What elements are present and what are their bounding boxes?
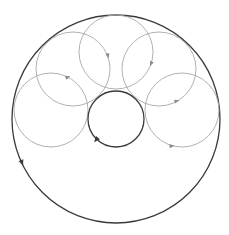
chain-circle-top (79, 15, 153, 89)
outer-circle-arrow-icon (19, 159, 26, 166)
chain-circle-upper-left (36, 32, 110, 106)
circle-chain-diagram (0, 0, 229, 235)
chain-right-arrow-icon (169, 144, 174, 148)
direction-arrows (19, 53, 180, 167)
inner-circle-arrow-icon (92, 136, 100, 144)
chain-circle-left (14, 73, 88, 147)
chain-upper-right-arrow-icon (174, 98, 180, 103)
chain-left-arrow-icon (65, 74, 71, 79)
chain-top-arrow-icon (148, 61, 153, 67)
chain-circle-right (145, 73, 219, 147)
chain-circle-upper-right (122, 32, 196, 106)
outer-circle (12, 15, 220, 223)
